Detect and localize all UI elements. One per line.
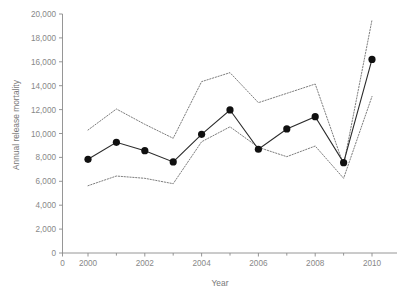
x-tick-label: 2006 <box>249 259 268 268</box>
y-axis-title: Annual release mortality <box>11 79 21 170</box>
confidence-interval-bands <box>88 20 372 186</box>
x-tick-label: 0 <box>60 259 65 268</box>
confidence-band-line <box>88 20 372 165</box>
data-point-marker <box>84 156 91 163</box>
data-point-marker <box>170 158 177 165</box>
y-tick-label: 12,000 <box>31 106 56 115</box>
x-tick-label: 2000 <box>79 259 98 268</box>
chart-container: 02,0004,0006,0008,00010,00012,00014,0001… <box>0 0 397 293</box>
x-axis: 0200020022004200620082010 <box>60 253 397 268</box>
y-tick-label: 18,000 <box>31 34 56 43</box>
data-point-marker <box>283 125 290 132</box>
data-point-marker <box>255 146 262 153</box>
x-axis-title: Year <box>212 278 229 288</box>
y-tick-label: 8,000 <box>36 153 57 162</box>
x-tick-label: 2002 <box>136 259 155 268</box>
y-tick-label: 10,000 <box>31 130 56 139</box>
data-point-marker <box>141 147 148 154</box>
data-point-marker <box>368 56 375 63</box>
x-tick-label: 2004 <box>192 259 211 268</box>
data-point-marker <box>198 131 205 138</box>
data-point-marker <box>340 159 347 166</box>
y-tick-label: 4,000 <box>36 201 57 210</box>
y-tick-label: 16,000 <box>31 58 56 67</box>
y-tick-label: 2,000 <box>36 225 57 234</box>
y-tick-label: 6,000 <box>36 177 57 186</box>
data-point-marker <box>226 106 233 113</box>
x-tick-label: 2010 <box>363 259 382 268</box>
y-tick-label: 14,000 <box>31 82 56 91</box>
annual-release-mortality-line-chart: 02,0004,0006,0008,00010,00012,00014,0001… <box>0 0 397 293</box>
y-tick-label: 20,000 <box>31 10 56 19</box>
x-tick-label: 2008 <box>306 259 325 268</box>
y-axis: 02,0004,0006,0008,00010,00012,00014,0001… <box>31 10 63 258</box>
y-tick-label: 0 <box>51 249 56 258</box>
data-point-marker <box>113 139 120 146</box>
data-point-marker <box>312 113 319 120</box>
